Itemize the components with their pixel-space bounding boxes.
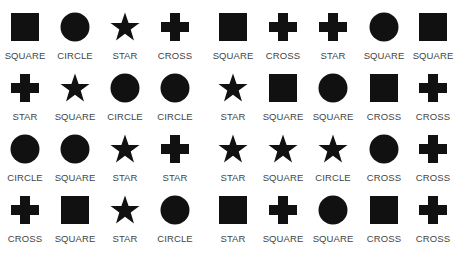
grid-cell: STAR	[208, 122, 258, 183]
grid-cell: SQUARE	[359, 0, 409, 61]
grid-cell: CROSS	[150, 0, 200, 61]
grid-cell: CROSS	[359, 183, 409, 244]
cross-icon	[10, 195, 40, 225]
star-icon	[318, 134, 348, 164]
shape-label: CROSS	[404, 172, 462, 183]
cross-icon	[318, 12, 348, 42]
circle-icon	[318, 73, 348, 103]
shape-label: CROSS	[404, 233, 462, 244]
shape-label: CROSS	[146, 50, 204, 61]
grid-cell: CROSS	[408, 61, 458, 122]
grid-cell: STAR	[208, 61, 258, 122]
cross-icon	[268, 195, 298, 225]
grid-cell: CROSS	[0, 183, 50, 244]
star-icon	[110, 134, 140, 164]
shape-label: SQUARE	[304, 233, 362, 244]
grid-cell: CIRCLE	[150, 61, 200, 122]
shape-label: STAR	[304, 50, 362, 61]
grid-cell: STAR	[308, 0, 358, 61]
grid-cell: CIRCLE	[50, 0, 100, 61]
square-icon	[218, 195, 248, 225]
shape-label: SQUARE	[404, 50, 462, 61]
shape-label: CIRCLE	[304, 172, 362, 183]
grid-cell: CROSS	[359, 61, 409, 122]
square-icon	[268, 73, 298, 103]
shape-label: CIRCLE	[146, 233, 204, 244]
star-icon	[218, 73, 248, 103]
grid-cell: STAR	[100, 122, 150, 183]
cross-icon	[418, 134, 448, 164]
cross-icon	[10, 73, 40, 103]
grid-cell: SQUARE	[50, 61, 100, 122]
grid-cell: SQUARE	[408, 0, 458, 61]
grid-cell: STAR	[0, 61, 50, 122]
grid-cell: CROSS	[408, 122, 458, 183]
grid-cell: SQUARE	[208, 0, 258, 61]
grid-cell: CROSS	[359, 122, 409, 183]
grid-cell: SQUARE	[50, 122, 100, 183]
grid-cell: CIRCLE	[0, 122, 50, 183]
square-icon	[10, 12, 40, 42]
shape-label: CIRCLE	[146, 111, 204, 122]
circle-icon	[160, 195, 190, 225]
star-icon	[110, 12, 140, 42]
grid-cell: CROSS	[258, 0, 308, 61]
grid-cell: SQUARE	[0, 0, 50, 61]
circle-icon	[110, 73, 140, 103]
cross-icon	[418, 195, 448, 225]
circle-icon	[160, 73, 190, 103]
shape-label-grid: SQUARECIRCLESTARCROSSSQUARECROSSSTARSQUA…	[0, 0, 464, 257]
square-icon	[418, 12, 448, 42]
grid-cell: STAR	[100, 0, 150, 61]
shape-label: STAR	[146, 172, 204, 183]
grid-cell: STAR	[100, 183, 150, 244]
circle-icon	[60, 134, 90, 164]
star-icon	[268, 134, 298, 164]
grid-cell: STAR	[208, 183, 258, 244]
square-icon	[369, 73, 399, 103]
grid-cell: CIRCLE	[100, 61, 150, 122]
grid-cell: CROSS	[408, 183, 458, 244]
circle-icon	[369, 134, 399, 164]
square-icon	[218, 12, 248, 42]
grid-cell: SQUARE	[308, 61, 358, 122]
star-icon	[110, 195, 140, 225]
star-icon	[218, 134, 248, 164]
shape-label: CROSS	[404, 111, 462, 122]
shape-label: SQUARE	[304, 111, 362, 122]
cross-icon	[160, 12, 190, 42]
grid-cell: STAR	[150, 122, 200, 183]
cross-icon	[160, 134, 190, 164]
square-icon	[60, 195, 90, 225]
grid-cell: SQUARE	[308, 183, 358, 244]
grid-cell: SQUARE	[258, 61, 308, 122]
grid-cell: CIRCLE	[308, 122, 358, 183]
circle-icon	[60, 12, 90, 42]
star-icon	[60, 73, 90, 103]
square-icon	[369, 195, 399, 225]
grid-cell: CIRCLE	[150, 183, 200, 244]
circle-icon	[318, 195, 348, 225]
circle-icon	[369, 12, 399, 42]
cross-icon	[418, 73, 448, 103]
circle-icon	[10, 134, 40, 164]
grid-cell: SQUARE	[258, 183, 308, 244]
grid-cell: SQUARE	[50, 183, 100, 244]
cross-icon	[268, 12, 298, 42]
grid-cell: SQUARE	[258, 122, 308, 183]
